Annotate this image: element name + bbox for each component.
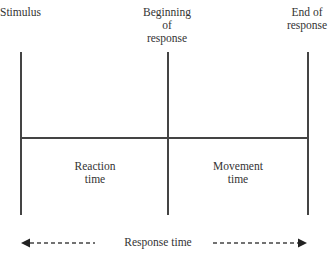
left-arrow-icon bbox=[21, 239, 95, 248]
response-time-arrows bbox=[0, 0, 330, 265]
right-arrow-icon bbox=[213, 239, 307, 248]
response-time-label: Response time bbox=[110, 236, 206, 249]
